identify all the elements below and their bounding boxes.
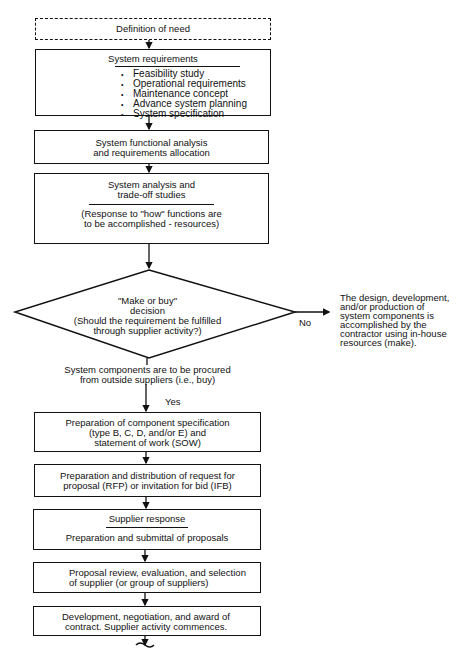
system-analysis-box: System analysis and trade-off studies (R… [34,173,269,244]
requirement-item: System specification [133,109,270,119]
make-text-line: resources (make). [340,338,449,347]
definition-of-need-label: Definition of need [116,23,190,34]
functional-analysis-line: and requirements allocation [35,148,268,158]
system-analysis-subline: to be accomplished - resources) [35,219,268,229]
proposal-review-box: Proposal review, evaluation, and selecti… [33,562,261,593]
contract-line: contract. Supplier activity commences. [62,622,260,632]
yes-label: Yes [165,397,181,407]
system-requirements-box: System requirements Feasibility study Op… [35,49,271,116]
no-label: No [299,318,311,328]
make-text: The design, development, and/or producti… [340,293,449,347]
definition-of-need-box: Definition of need [35,18,271,40]
rfp-line: proposal (RFP) or invitation for bid (IF… [35,481,260,491]
proposal-review-line: of supplier (or group of suppliers) [69,578,260,588]
functional-analysis-box: System functional analysis and requireme… [34,130,269,164]
system-analysis-line: trade-off studies [35,190,268,200]
buy-text-line: from outside suppliers (i.e., buy) [55,375,240,385]
decision-line: through supplier activity?) [55,326,240,336]
supplier-response-box: Supplier response Preparation and submit… [33,509,261,550]
buy-text: System components are to be procured fro… [55,365,240,385]
component-spec-line: statement of work (SOW) [35,438,260,448]
supplier-response-title: Supplier response [34,514,260,524]
contract-box: Development, negotiation, and award of c… [33,606,261,636]
supplier-response-subtitle: Preparation and submittal of proposals [34,533,260,543]
decision-text: "Make or buy" decision (Should the requi… [55,296,240,336]
component-spec-box: Preparation of component specification (… [34,412,261,452]
rfp-box: Preparation and distribution of request … [34,464,261,497]
system-requirements-title: System requirements [36,54,270,64]
